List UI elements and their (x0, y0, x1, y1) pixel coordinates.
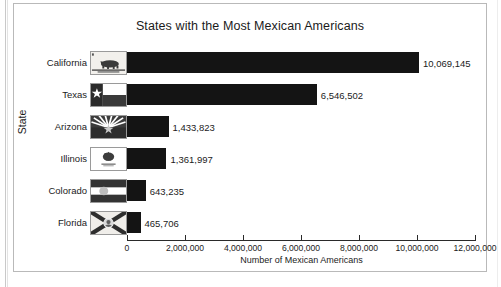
category-california: California (14, 52, 127, 73)
bar-row: 1,361,997 (127, 148, 475, 169)
screenshot-root: States with the Most Mexican Americans S… (0, 0, 501, 287)
category-texas: Texas (14, 84, 127, 105)
bar-row: 6,546,502 (127, 84, 475, 105)
x-tick-label: 8,000,000 (340, 243, 378, 253)
bar-value-label: 465,706 (141, 217, 179, 228)
x-tick (185, 235, 186, 240)
chart-frame: States with the Most Mexican Americans S… (13, 3, 487, 272)
scan-edge-line (5, 0, 6, 287)
category-label: Florida (58, 217, 90, 228)
x-tick (301, 235, 302, 240)
category-label: Arizona (55, 121, 90, 132)
bar-value-label: 6,546,502 (317, 89, 363, 100)
plot-area: 10,069,1456,546,5021,433,8231,361,997643… (127, 49, 475, 235)
bar-row: 643,235 (127, 180, 475, 201)
category-label: Colorado (48, 185, 90, 196)
bar-value-label: 643,235 (146, 185, 184, 196)
category-florida: Florida (14, 212, 127, 233)
category-label: Texas (62, 89, 90, 100)
x-tick (127, 235, 128, 240)
flag-florida-icon (90, 211, 127, 235)
scan-edge-line-secondary (7, 0, 8, 287)
bar-row: 10,069,145 (127, 52, 475, 73)
x-tick-label: 2,000,000 (166, 243, 204, 253)
bar-value-label: 10,069,145 (419, 57, 471, 68)
x-tick (243, 235, 244, 240)
bar-texas (127, 84, 317, 105)
x-tick-label: 0 (125, 243, 130, 253)
x-tick (359, 235, 360, 240)
flag-illinois-icon (90, 147, 127, 171)
x-tick-label: 12,000,000 (453, 243, 496, 253)
category-illinois: Illinois (14, 148, 127, 169)
x-tick-label: 4,000,000 (224, 243, 262, 253)
x-axis-title: Number of Mexican Americans (127, 255, 476, 265)
bar-florida (127, 212, 141, 233)
flag-california-icon (90, 51, 127, 75)
bar-arizona (127, 116, 169, 137)
flag-colorado-icon (90, 179, 127, 203)
bar-row: 1,433,823 (127, 116, 475, 137)
x-tick-label: 10,000,000 (395, 243, 438, 253)
x-tick (417, 235, 418, 240)
bar-value-label: 1,433,823 (169, 121, 215, 132)
x-tick (475, 235, 476, 240)
bar-row: 465,706 (127, 212, 475, 233)
flag-arizona-icon (90, 115, 127, 139)
bar-california (127, 52, 419, 73)
chart-title: States with the Most Mexican Americans (14, 19, 486, 33)
flag-texas-icon (90, 83, 127, 107)
category-arizona: Arizona (14, 116, 127, 137)
bar-illinois (127, 148, 166, 169)
category-colorado: Colorado (14, 180, 127, 201)
category-label: California (47, 57, 90, 68)
category-label: Illinois (61, 153, 90, 164)
bar-value-label: 1,361,997 (166, 153, 212, 164)
bar-colorado (127, 180, 146, 201)
x-tick-label: 6,000,000 (282, 243, 320, 253)
x-axis-line (127, 240, 476, 241)
scan-edge-line-right (497, 0, 498, 287)
